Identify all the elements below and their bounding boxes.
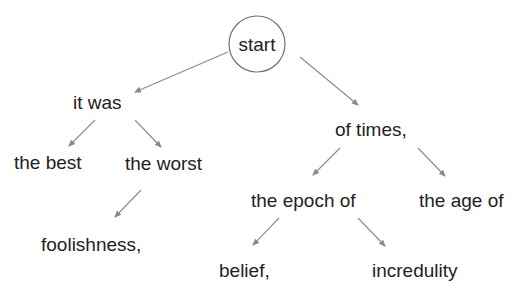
node-the-age-of: the age of (419, 190, 504, 211)
node-the-worst: the worst (125, 153, 203, 174)
node-of-times: of times, (335, 119, 407, 140)
node-foolishness: foolishness, (41, 234, 141, 255)
tree-diagram: start it was the best the worst foolishn… (0, 0, 517, 288)
edge-of-times-the-age-of (418, 148, 445, 176)
node-the-best: the best (14, 152, 82, 173)
node-it-was: it was (73, 92, 122, 113)
node-the-epoch-of: the epoch of (251, 190, 356, 211)
edge-the-epoch-of-belief (253, 218, 279, 245)
edge-the-epoch-of-incredulity (358, 218, 385, 246)
edge-start-of-times (300, 57, 358, 105)
edge-start-it-was (135, 52, 228, 92)
edge-the-worst-foolishness (115, 190, 141, 217)
edge-it-was-the-worst (135, 120, 161, 147)
node-start: start (239, 34, 277, 55)
node-belief: belief, (219, 260, 270, 281)
edge-of-times-the-epoch-of (313, 148, 340, 175)
node-incredulity: incredulity (372, 260, 458, 281)
edge-it-was-the-best (69, 120, 95, 146)
